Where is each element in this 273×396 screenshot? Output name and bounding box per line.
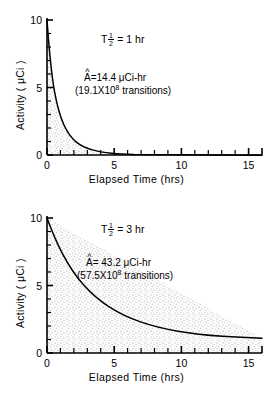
- plot-area-halflife-1hr: [0, 0, 273, 198]
- annotation-cumulated-activity: ^A=14.4 μCi-hr: [84, 72, 146, 85]
- y-axis-title: Activity ( μCi ): [14, 60, 26, 130]
- transitions-prefix: (57.5X10: [77, 270, 118, 281]
- figure-activity-decay-panels: 10 5 0 0 5 10 15 Elapsed Time (hrs) Acti…: [0, 0, 273, 396]
- x-tick-label-0: 0: [44, 159, 50, 171]
- halflife-fraction: 12: [108, 222, 114, 237]
- x-tick-label-5: 5: [111, 159, 117, 171]
- ahat-symbol-group: ^A: [86, 257, 93, 270]
- halflife-denominator: 2: [108, 40, 114, 47]
- transitions-suffix: transitions): [122, 270, 174, 281]
- y-axis-title-units: μCi: [14, 67, 26, 84]
- y-axis-title-suffix: ): [14, 60, 26, 67]
- ahat-units: μCi-hr: [124, 257, 151, 268]
- x-axis-title: Elapsed Time (hrs): [0, 371, 273, 383]
- x-axis-title: Elapsed Time (hrs): [0, 173, 273, 185]
- y-tick-label-5: 5: [24, 280, 42, 292]
- x-tick-label-10: 10: [176, 357, 188, 369]
- y-axis-title-prefix: Activity (: [14, 282, 26, 328]
- ahat-value: =14.4: [91, 72, 116, 83]
- ahat-units: μCi-hr: [119, 72, 146, 83]
- transitions-prefix: (19.1X10: [75, 85, 116, 96]
- ahat-caret: ^: [86, 253, 93, 262]
- ahat-symbol-group: ^A: [84, 72, 91, 85]
- halflife-value: = 3 hr: [117, 223, 144, 235]
- x-tick-label-5: 5: [111, 357, 117, 369]
- x-tick-label-15: 15: [243, 159, 255, 171]
- ahat-caret: ^: [84, 68, 91, 77]
- halflife-numerator: 1: [108, 32, 114, 40]
- chart-panel-halflife-1hr: 10 5 0 0 5 10 15 Elapsed Time (hrs) Acti…: [0, 0, 273, 198]
- x-tick-label-10: 10: [176, 159, 188, 171]
- halflife-fraction: 12: [108, 32, 114, 47]
- halflife-value: = 1 hr: [117, 33, 144, 45]
- y-tick-label-0: 0: [24, 347, 42, 359]
- y-tick-label-10: 10: [24, 212, 42, 224]
- annotation-transitions: (57.5X108 transitions): [77, 270, 173, 283]
- y-axis-title-suffix: ): [14, 258, 26, 265]
- chart-panel-halflife-3hr: 10 5 0 0 5 10 15 Elapsed Time (hrs) Acti…: [0, 198, 273, 396]
- halflife-denominator: 2: [108, 230, 114, 237]
- y-axis-title-prefix: Activity (: [14, 84, 26, 130]
- halflife-symbol: T: [101, 223, 107, 235]
- annotation-cumulated-activity: ^A= 43.2 μCi-hr: [86, 257, 151, 270]
- y-axis-title-units: μCi: [14, 265, 26, 282]
- halflife-symbol: T: [101, 33, 107, 45]
- x-tick-label-15: 15: [243, 357, 255, 369]
- y-tick-label-10: 10: [24, 14, 42, 26]
- y-tick-label-0: 0: [24, 149, 42, 161]
- annotation-halflife: T12 = 1 hr: [101, 32, 144, 47]
- y-tick-label-5: 5: [24, 82, 42, 94]
- y-axis-title: Activity ( μCi ): [14, 258, 26, 328]
- annotation-halflife: T12 = 3 hr: [101, 222, 144, 237]
- annotation-transitions: (19.1X108 transitions): [75, 85, 171, 98]
- transitions-suffix: transitions): [120, 85, 172, 96]
- halflife-numerator: 1: [108, 222, 114, 230]
- x-tick-label-0: 0: [44, 357, 50, 369]
- ahat-value: = 43.2: [93, 257, 121, 268]
